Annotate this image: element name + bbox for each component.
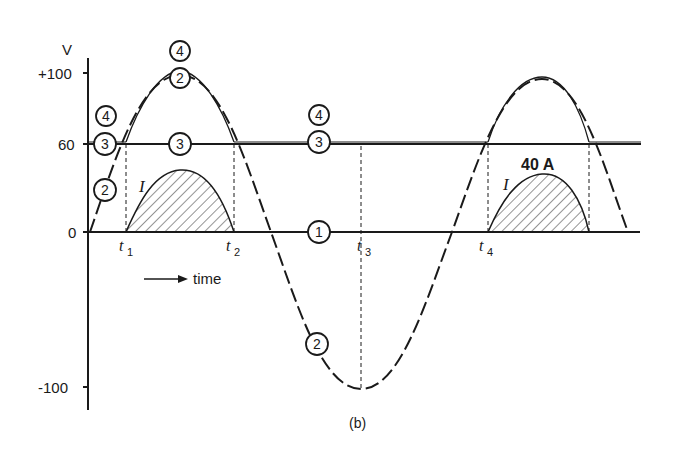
time-label: time xyxy=(193,270,221,287)
circle-label-1: 1 xyxy=(308,221,330,243)
svg-text:4: 4 xyxy=(487,246,493,258)
svg-text:4: 4 xyxy=(102,108,110,124)
svg-text:1: 1 xyxy=(315,224,323,240)
current-label-2: I xyxy=(502,175,510,194)
circle-label-2-top: 2 xyxy=(170,68,190,88)
svg-text:t: t xyxy=(479,237,484,254)
circle-label-4-top: 4 xyxy=(170,41,190,61)
svg-text:3: 3 xyxy=(315,134,323,150)
t1-marker: t 1 xyxy=(119,237,133,258)
circle-label-2-left: 2 xyxy=(94,179,116,201)
circle-label-3-right: 3 xyxy=(308,131,330,153)
t3-marker: t 3 xyxy=(357,237,371,258)
svg-text:4: 4 xyxy=(315,107,323,123)
svg-text:t: t xyxy=(119,237,124,254)
tick-label-0: 0 xyxy=(68,224,76,241)
svg-text:2: 2 xyxy=(313,336,321,352)
svg-text:3: 3 xyxy=(365,246,371,258)
time-arrow xyxy=(144,275,188,283)
svg-text:2: 2 xyxy=(234,246,240,258)
tick-label-plus100: +100 xyxy=(38,65,72,82)
circle-label-2-bottom: 2 xyxy=(306,333,328,355)
svg-text:1: 1 xyxy=(127,246,133,258)
svg-text:2: 2 xyxy=(101,182,109,198)
tick-label-60: 60 xyxy=(58,136,75,153)
svg-text:3: 3 xyxy=(101,136,109,152)
figure-caption: (b) xyxy=(349,415,366,431)
svg-text:t: t xyxy=(357,237,362,254)
t4-marker: t 4 xyxy=(479,237,493,258)
rectifier-waveform-diagram: V +100 60 0 -100 4 2 4 3 3 xyxy=(0,0,677,459)
svg-text:2: 2 xyxy=(176,70,184,86)
y-axis-label: V xyxy=(62,41,72,58)
tick-label-minus100: -100 xyxy=(38,379,68,396)
svg-text:3: 3 xyxy=(176,136,184,152)
y-axis xyxy=(83,58,88,410)
circle-label-4-right: 4 xyxy=(309,105,329,125)
svg-text:t: t xyxy=(226,237,231,254)
circle-label-3-left: 3 xyxy=(94,133,116,155)
t2-marker: t 2 xyxy=(226,237,240,258)
svg-text:4: 4 xyxy=(176,43,184,59)
circle-label-3-mid: 3 xyxy=(169,133,191,155)
circle-label-4-left: 4 xyxy=(96,106,116,126)
current-label-1: I xyxy=(138,177,146,196)
peak-current-label: 40 A xyxy=(521,156,555,173)
